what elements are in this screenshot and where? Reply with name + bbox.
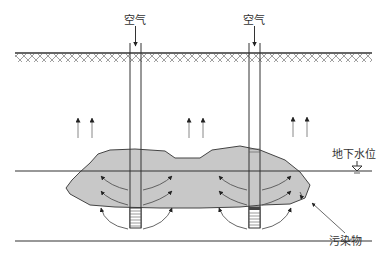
contaminant-leader-line xyxy=(312,203,345,233)
contaminant-plume xyxy=(66,146,310,208)
rising-vapor-arrows xyxy=(78,117,307,138)
air-sparging-diagram xyxy=(0,0,388,255)
label-contaminant: 污染物 xyxy=(329,232,362,248)
ground-surface xyxy=(15,53,372,62)
label-air-left: 空气 xyxy=(124,11,146,27)
label-water-table: 地下水位 xyxy=(332,145,376,161)
label-air-right: 空气 xyxy=(243,11,265,27)
